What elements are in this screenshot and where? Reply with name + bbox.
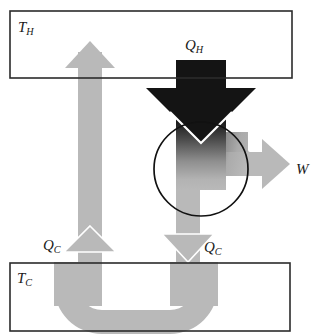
- heat-out-left-symbol: Q: [43, 237, 54, 253]
- diagram-svg: [0, 0, 318, 336]
- heat-in-symbol: Q: [185, 37, 196, 53]
- cold-reservoir-label: TC: [17, 271, 32, 288]
- hot-reservoir-subscript: H: [26, 26, 33, 37]
- hot-reservoir-label: TH: [18, 20, 34, 37]
- work-label: W: [296, 162, 309, 177]
- heat-out-left-label: QC: [43, 238, 61, 255]
- heat-in-label: QH: [185, 38, 203, 55]
- heat-out-right-label: QC: [204, 240, 222, 257]
- hot-reservoir-box: [10, 11, 292, 78]
- heat-in-subscript: H: [196, 44, 203, 55]
- heat-out-left-flow: [64, 41, 116, 300]
- heat-out-left-subscript: C: [54, 244, 61, 255]
- cold-reservoir-subscript: C: [25, 277, 32, 288]
- diagram-canvas: TH TC QH QC QC W: [0, 0, 318, 336]
- work-symbol: W: [296, 161, 309, 177]
- heat-out-right-subscript: C: [215, 246, 222, 257]
- heat-out-right-symbol: Q: [204, 239, 215, 255]
